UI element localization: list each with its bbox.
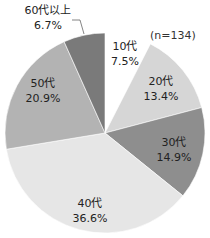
slice-label-50s: 50代 20.9%: [23, 76, 63, 106]
slice-label-10s: 10代 7.5%: [108, 39, 142, 69]
sample-size-note: (n=134): [150, 29, 196, 42]
slice-label-30s: 30代 14.9%: [154, 135, 194, 165]
slice-category: 60代以上: [20, 3, 76, 18]
slice-percent: 20.9%: [23, 91, 63, 106]
slice-category: 40代: [70, 196, 110, 211]
slice-category: 30代: [154, 135, 194, 150]
slice-category: 10代: [108, 39, 142, 54]
slice-percent: 13.4%: [141, 89, 181, 104]
slice-category: 20代: [141, 74, 181, 89]
slice-percent: 6.7%: [20, 18, 76, 33]
slice-label-20s: 20代 13.4%: [141, 74, 181, 104]
slice-percent: 7.5%: [108, 54, 142, 69]
slice-label-40s: 40代 36.6%: [70, 196, 110, 226]
slice-percent: 14.9%: [154, 150, 194, 165]
slice-label-60s-plus: 60代以上 6.7%: [20, 3, 76, 33]
slice-category: 50代: [23, 76, 63, 91]
slice-percent: 36.6%: [70, 211, 110, 226]
